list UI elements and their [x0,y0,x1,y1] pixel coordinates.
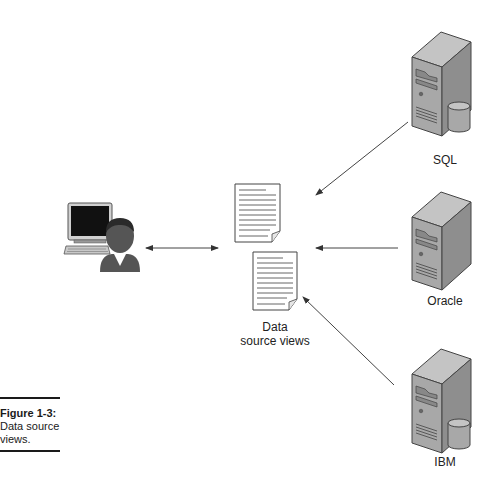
caption-top-rule [0,397,60,399]
database-icon [448,102,470,132]
keyboard-icon [64,246,110,254]
diagram-canvas [0,0,499,481]
sql-server-label: SQL [425,153,465,167]
data-source-views-label-line2: source views [235,334,315,348]
oracle-server-icon [412,192,471,290]
monitor-icon [68,203,112,243]
ibm-server-icon [412,349,471,453]
ibm-views-arrow [303,297,394,385]
data-source-views-label-line1: Data [235,320,315,334]
data-source-views-label: Data source views [235,320,315,348]
user-workstation-icon [64,203,140,272]
database-icon [448,419,470,449]
document-icon [253,252,297,310]
document-stack-icon [235,184,297,310]
oracle-server-label: Oracle [420,294,470,308]
sql-views-arrow [316,122,408,195]
document-icon [235,184,280,242]
ibm-server-label: IBM [425,455,465,469]
figure-caption: Figure 1-3: Data source views. [0,397,62,452]
sql-server-icon [412,32,471,136]
caption-bottom-rule [0,450,60,452]
figure-number: Figure 1-3: [0,407,62,420]
figure-caption-text: Data source views. [0,420,70,446]
